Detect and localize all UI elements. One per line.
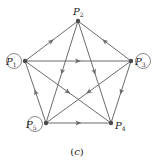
node-label: P2 [72, 6, 84, 18]
arrowhead-icon [32, 88, 38, 95]
node-dot [109, 121, 113, 125]
node-p2: P2 [72, 6, 84, 23]
node-dot [76, 19, 80, 23]
arrowhead-icon [59, 68, 65, 75]
node-dot [44, 121, 48, 125]
edges-layer [25, 21, 131, 125]
node-dot [23, 59, 27, 63]
node-p3: P3 [129, 54, 151, 69]
arrowhead-icon [64, 88, 72, 95]
directed-graph: P1P2P3P4P5 (c) [0, 0, 154, 168]
figure-caption: (c) [70, 146, 84, 157]
node-label: P4 [114, 120, 126, 132]
node-p4: P4 [109, 120, 126, 132]
arrowhead-icon [91, 68, 97, 75]
arrowhead-icon [118, 88, 124, 95]
arrowhead-icon [85, 88, 93, 95]
node-p1: P1 [5, 54, 27, 69]
node-dot [129, 59, 133, 63]
